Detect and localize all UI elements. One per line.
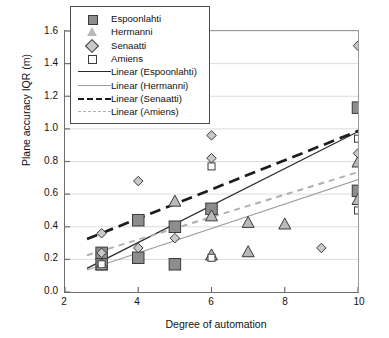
y-tick-label: 1.6	[24, 25, 58, 36]
data-point-senaatti	[353, 41, 358, 51]
legend-item-linear-hermanni: Linear (Hermanni)	[77, 78, 205, 91]
x-tick-label: 2	[51, 296, 77, 307]
legend-item-amiens: Amiens	[77, 52, 205, 65]
data-point-espoonlahti	[133, 252, 145, 264]
open-square-marker-icon	[77, 52, 111, 65]
legend-label: Senaatti	[111, 39, 146, 52]
legend-item-linear-senaatti: Linear (Senaatti)	[77, 92, 205, 105]
data-point-senaatti	[97, 229, 107, 239]
legend-item-senaatti: Senaatti	[77, 39, 205, 52]
data-point-amiens	[355, 207, 359, 214]
data-point-espoonlahti	[169, 221, 181, 233]
y-tick-label: 1.0	[24, 122, 58, 133]
legend-label: Amiens	[111, 52, 143, 65]
x-tick-label: 8	[272, 296, 298, 307]
filled-triangle-marker-icon	[77, 25, 111, 38]
data-point-senaatti	[134, 176, 144, 186]
legend-item-linear-amiens: Linear (Amiens)	[77, 105, 205, 118]
y-tick-label: 1.4	[24, 57, 58, 68]
solid-dark-line-icon	[77, 65, 111, 78]
data-point-hermanni	[169, 195, 181, 206]
chart-legend: Espoonlahti Hermanni Senaatti Amiens Lin…	[70, 6, 210, 124]
legend-item-linear-espoonlahti: Linear (Espoonlahti)	[77, 65, 205, 78]
legend-label: Linear (Amiens)	[111, 105, 179, 118]
x-tick-label: 4	[124, 296, 150, 307]
data-point-espoonlahti	[352, 102, 358, 114]
data-point-amiens	[98, 261, 105, 268]
filled-diamond-marker-icon	[77, 39, 111, 52]
y-tick-label: 0.6	[24, 187, 58, 198]
data-point-hermanni	[242, 246, 254, 257]
legend-label: Espoonlahti	[111, 12, 161, 25]
legend-label: Linear (Senaatti)	[111, 92, 182, 105]
chart-figure: Plane accuracy IQR (m) 1.6 1.4 1.2 1.0 0…	[0, 0, 389, 338]
filled-square-marker-icon	[77, 12, 111, 25]
data-point-espoonlahti	[133, 214, 145, 226]
data-point-amiens	[208, 254, 215, 261]
y-tick-label: 0.4	[24, 220, 58, 231]
legend-label: Linear (Espoonlahti)	[111, 65, 197, 78]
solid-light-line-icon	[77, 79, 111, 92]
x-tick-label: 6	[198, 296, 224, 307]
x-axis-label: Degree of automation	[56, 318, 376, 330]
y-tick-label: 0.8	[24, 155, 58, 166]
data-point-senaatti	[317, 243, 327, 253]
data-point-senaatti	[207, 131, 217, 141]
y-tick-label: 1.2	[24, 90, 58, 101]
y-tick-label: 0.0	[24, 285, 58, 296]
x-tick-label: 10	[346, 296, 372, 307]
legend-item-hermanni: Hermanni	[77, 25, 205, 38]
data-point-amiens	[208, 163, 215, 170]
legend-label: Linear (Hermanni)	[111, 79, 188, 92]
data-point-amiens	[355, 135, 359, 142]
data-point-espoonlahti	[169, 259, 181, 271]
dashed-thin-line-icon	[77, 105, 111, 118]
legend-item-espoonlahti: Espoonlahti	[77, 12, 205, 25]
data-point-hermanni	[279, 218, 291, 229]
dashed-thick-line-icon	[77, 92, 111, 105]
legend-label: Hermanni	[111, 25, 153, 38]
data-point-senaatti	[353, 149, 358, 159]
y-tick-label: 0.2	[24, 252, 58, 263]
